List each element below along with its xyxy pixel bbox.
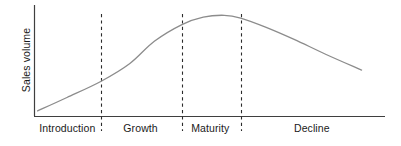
stage-label-introduction: Introduction [35,122,101,134]
y-axis-label: Sales volume [20,15,32,105]
stage-label-growth: Growth [100,122,181,134]
stage-label-maturity: Maturity [181,122,240,134]
product-life-cycle-chart: Sales volume Introduction Growth Maturit… [0,0,401,146]
stage-label-decline: Decline [240,122,384,134]
sales-volume-curve [38,15,362,111]
